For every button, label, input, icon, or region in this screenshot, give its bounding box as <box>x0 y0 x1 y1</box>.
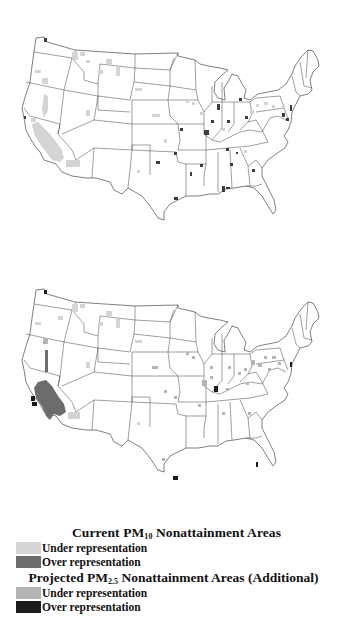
swatch-pm25-over <box>16 601 41 613</box>
legend: Current PM10 Nonattainment Areas Under r… <box>0 525 341 614</box>
legend-label: Over representation <box>42 601 141 613</box>
legend-label: Over representation <box>42 556 141 568</box>
map-current-pm10 <box>0 30 341 240</box>
map-projected-pm25 <box>0 282 341 487</box>
legend-title-current: Current PM10 Nonattainment Areas <box>12 525 341 541</box>
legend-label: Under representation <box>42 542 147 554</box>
legend-label: Under representation <box>42 587 147 599</box>
legend-item-pm25-under: Under representation <box>16 586 341 600</box>
legend-item-pm10-over: Over representation <box>16 555 341 569</box>
swatch-pm10-under <box>16 542 41 554</box>
legend-item-pm10-under: Under representation <box>16 541 341 555</box>
swatch-pm10-over <box>16 556 41 568</box>
legend-item-pm25-over: Over representation <box>16 600 341 614</box>
legend-title-projected: Projected PM2.5 Nonattainment Areas (Add… <box>6 570 341 586</box>
swatch-pm25-under <box>16 587 41 599</box>
us-map-projected <box>0 282 341 487</box>
us-map-current <box>0 30 341 240</box>
